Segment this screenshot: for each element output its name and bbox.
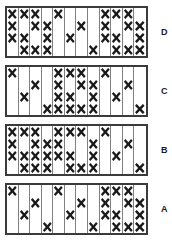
grid-cell[interactable] (53, 32, 65, 44)
grid-cell[interactable] (88, 20, 100, 32)
grid-cell[interactable] (123, 197, 135, 209)
grid-cell[interactable] (123, 221, 135, 233)
grid-cell[interactable] (134, 67, 146, 79)
grid-cell[interactable] (7, 32, 19, 44)
grid-cell[interactable] (7, 8, 19, 20)
grid-cell[interactable] (100, 79, 112, 91)
grid-cell[interactable] (134, 185, 146, 197)
grid-cell[interactable] (76, 162, 88, 174)
grid-cell[interactable] (30, 8, 42, 20)
grid-cell[interactable] (88, 44, 100, 56)
grid-cell[interactable] (123, 162, 135, 174)
grid-cell[interactable] (111, 185, 123, 197)
grid-cell[interactable] (76, 20, 88, 32)
grid-cell[interactable] (100, 126, 112, 138)
grid-cell[interactable] (7, 44, 19, 56)
grid-cell[interactable] (111, 103, 123, 115)
grid-cell[interactable] (30, 138, 42, 150)
grid-cell[interactable] (7, 150, 19, 162)
grid-cell[interactable] (65, 32, 77, 44)
grid-cell[interactable] (53, 221, 65, 233)
grid-cell[interactable] (19, 150, 31, 162)
grid-cell[interactable] (7, 103, 19, 115)
grid-cell[interactable] (65, 197, 77, 209)
grid-cell[interactable] (65, 8, 77, 20)
grid-cell[interactable] (134, 126, 146, 138)
grid-cell[interactable] (88, 8, 100, 20)
grid-cell[interactable] (111, 126, 123, 138)
grid-cell[interactable] (30, 67, 42, 79)
grid-cell[interactable] (76, 67, 88, 79)
grid-cell[interactable] (123, 32, 135, 44)
grid-cell[interactable] (19, 197, 31, 209)
grid-cell[interactable] (42, 221, 54, 233)
grid-cell[interactable] (53, 91, 65, 103)
grid-cell[interactable] (88, 67, 100, 79)
grid-cell[interactable] (76, 138, 88, 150)
grid-cell[interactable] (111, 32, 123, 44)
grid-cell[interactable] (76, 197, 88, 209)
grid-cell[interactable] (111, 67, 123, 79)
grid-cell[interactable] (7, 185, 19, 197)
grid-cell[interactable] (134, 79, 146, 91)
grid-cell[interactable] (42, 103, 54, 115)
grid-cell[interactable] (111, 79, 123, 91)
grid-cell[interactable] (100, 197, 112, 209)
grid-cell[interactable] (65, 67, 77, 79)
grid-cell[interactable] (42, 20, 54, 32)
grid-cell[interactable] (76, 221, 88, 233)
grid-cell[interactable] (42, 185, 54, 197)
grid-cell[interactable] (53, 197, 65, 209)
grid-cell[interactable] (65, 79, 77, 91)
grid-cell[interactable] (7, 209, 19, 221)
grid-cell[interactable] (53, 126, 65, 138)
grid-cell[interactable] (42, 8, 54, 20)
grid-cell[interactable] (42, 150, 54, 162)
grid-cell[interactable] (100, 20, 112, 32)
grid-cell[interactable] (123, 67, 135, 79)
grid-cell[interactable] (134, 162, 146, 174)
grid-cell[interactable] (30, 79, 42, 91)
grid-cell[interactable] (65, 138, 77, 150)
grid-cell[interactable] (42, 32, 54, 44)
grid-cell[interactable] (19, 79, 31, 91)
grid-cell[interactable] (19, 138, 31, 150)
grid-cell[interactable] (30, 185, 42, 197)
grid-cell[interactable] (100, 103, 112, 115)
grid-cell[interactable] (88, 150, 100, 162)
grid-cell[interactable] (53, 44, 65, 56)
grid-cell[interactable] (65, 103, 77, 115)
grid-cell[interactable] (88, 91, 100, 103)
grid-cell[interactable] (65, 44, 77, 56)
grid-cell[interactable] (111, 91, 123, 103)
grid-cell[interactable] (42, 138, 54, 150)
grid-cell[interactable] (7, 197, 19, 209)
grid-cell[interactable] (19, 209, 31, 221)
grid-cell[interactable] (88, 32, 100, 44)
grid-cell[interactable] (42, 197, 54, 209)
grid-cell[interactable] (111, 138, 123, 150)
grid-cell[interactable] (134, 209, 146, 221)
grid-cell[interactable] (30, 162, 42, 174)
grid-cell[interactable] (100, 32, 112, 44)
grid-cell[interactable] (53, 138, 65, 150)
grid-cell[interactable] (53, 185, 65, 197)
grid-cell[interactable] (123, 103, 135, 115)
grid-cell[interactable] (88, 221, 100, 233)
grid-cell[interactable] (53, 79, 65, 91)
grid-cell[interactable] (76, 79, 88, 91)
grid-cell[interactable] (134, 138, 146, 150)
grid-cell[interactable] (65, 91, 77, 103)
grid-cell[interactable] (88, 162, 100, 174)
grid-cell[interactable] (30, 197, 42, 209)
grid-cell[interactable] (100, 44, 112, 56)
grid-cell[interactable] (100, 91, 112, 103)
grid-cell[interactable] (30, 209, 42, 221)
grid-cell[interactable] (100, 138, 112, 150)
grid-cell[interactable] (53, 20, 65, 32)
grid-cell[interactable] (88, 209, 100, 221)
grid-cell[interactable] (65, 126, 77, 138)
grid-cell[interactable] (7, 20, 19, 32)
grid-cell[interactable] (42, 162, 54, 174)
grid-cell[interactable] (134, 221, 146, 233)
